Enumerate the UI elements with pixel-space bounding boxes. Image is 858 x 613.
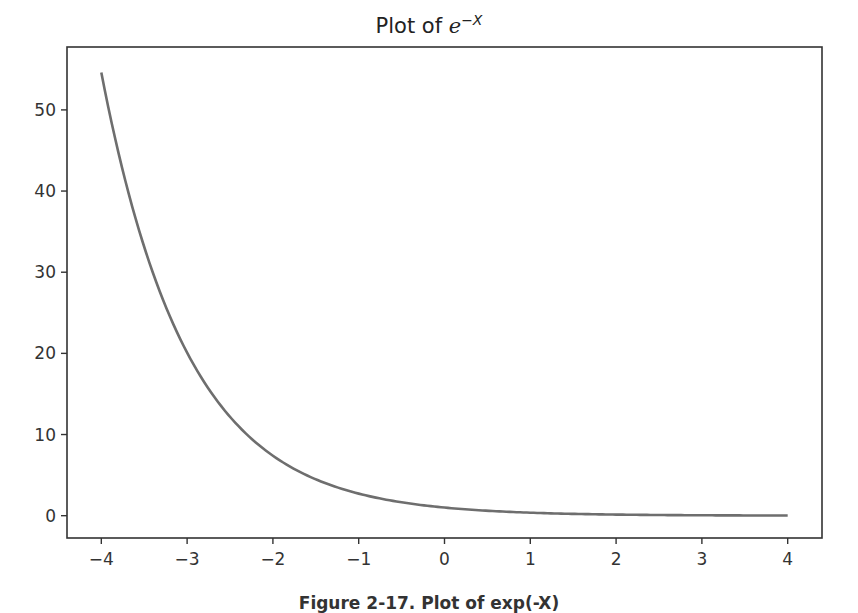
x-tick-label: 0 xyxy=(439,549,450,569)
x-tick-label: 3 xyxy=(696,549,707,569)
x-tick-label: −4 xyxy=(89,549,114,569)
x-tick-label: −1 xyxy=(346,549,371,569)
x-tick-label: 2 xyxy=(611,549,622,569)
axes-frame xyxy=(67,47,822,538)
x-tick-label: 4 xyxy=(782,549,793,569)
series-line xyxy=(101,73,787,516)
y-tick-label: 30 xyxy=(34,262,56,282)
x-tick-label: −2 xyxy=(260,549,285,569)
y-tick-label: 40 xyxy=(34,181,56,201)
figure-caption: Figure 2-17. Plot of exp(-X) xyxy=(0,593,858,613)
x-tick-label: 1 xyxy=(525,549,536,569)
y-tick-label: 50 xyxy=(34,100,56,120)
y-tick-label: 10 xyxy=(34,425,56,445)
x-tick-label: −3 xyxy=(175,549,200,569)
y-tick-label: 0 xyxy=(45,506,56,526)
y-tick-label: 20 xyxy=(34,343,56,363)
